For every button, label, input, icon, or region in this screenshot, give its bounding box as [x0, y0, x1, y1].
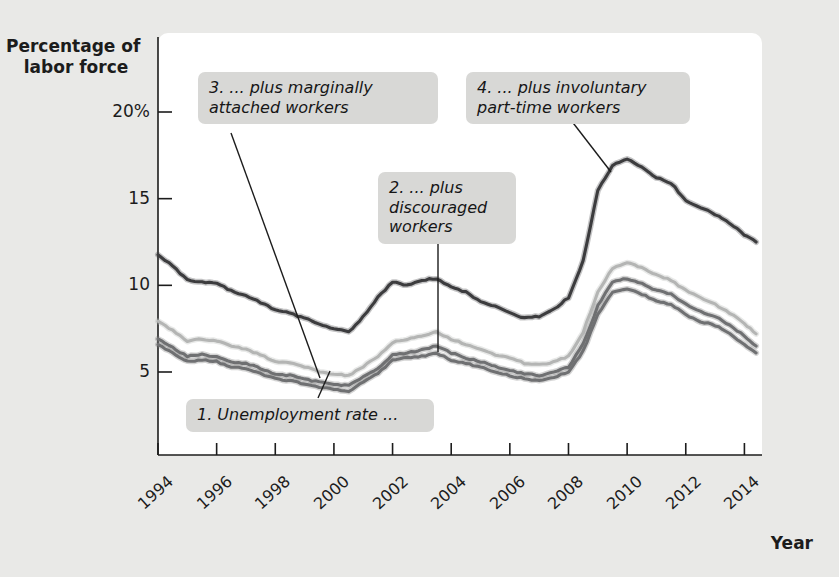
annotation-callout-4: 4. ... plus involuntary part-time worker… [466, 72, 690, 124]
chart-figure: Percentage of labor force 20%15105 19941… [0, 0, 839, 577]
annotation-callout-1: 1. Unemployment rate ... [186, 399, 434, 432]
annotation-callout-2: 2. ... plus discouraged workers [378, 172, 516, 244]
annotation-callout-3: 3. ... plus marginally attached workers [198, 72, 438, 124]
leader-line-3 [231, 133, 320, 378]
